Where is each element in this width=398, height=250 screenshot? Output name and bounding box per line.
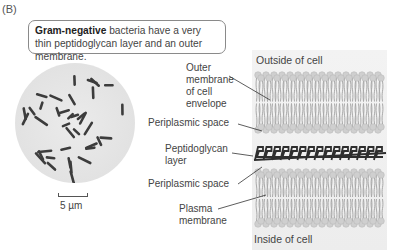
inside-of-cell-label: Inside of cell — [254, 233, 312, 245]
periplasmic-space-top-label: Periplasmic space — [148, 117, 229, 129]
peptidoglycan-layer-label: Peptidoglycan layer — [165, 143, 228, 167]
outside-of-cell-label: Outside of cell — [256, 54, 323, 66]
periplasmic-space-bottom-label: Periplasmic space — [148, 178, 229, 190]
plasma-membrane-label: Plasma membrane — [179, 203, 227, 227]
outer-membrane-label: Outer membrane of cell envelope — [186, 62, 234, 110]
